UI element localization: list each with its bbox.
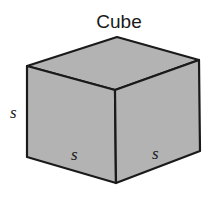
diagram-title: Cube <box>96 11 141 32</box>
left-edge-label: s <box>10 103 17 122</box>
right-bottom-edge-label: s <box>152 144 159 163</box>
cube-diagram: Cube s s s <box>0 0 214 200</box>
front-bottom-edge-label: s <box>71 145 78 164</box>
cube <box>27 37 200 183</box>
